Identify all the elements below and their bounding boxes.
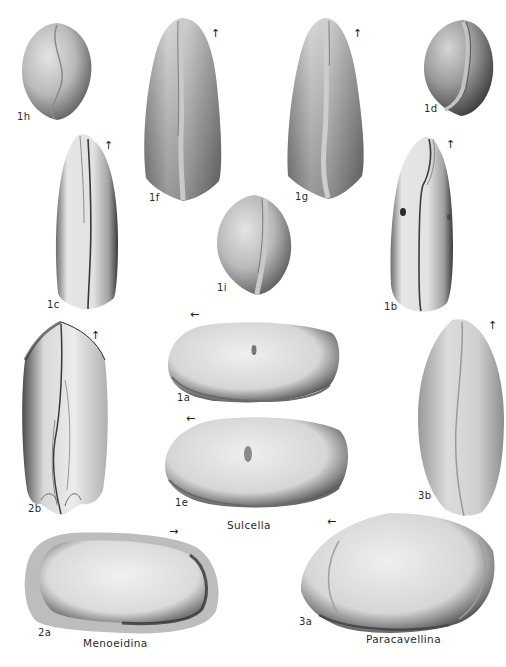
specimen-1c [54,133,120,311]
label-1f: 1f [149,193,159,203]
specimen-1a [166,321,342,405]
orientation-arrow-2b: ↑ [91,330,100,341]
label-2a: 2a [38,628,51,638]
label-3a: 3a [299,617,312,627]
label-1e: 1e [175,498,188,508]
specimen-1g [286,16,366,200]
orientation-arrow-1c: ↑ [104,140,113,151]
specimen-1e [163,416,351,510]
genus-name-menoeidina: Menoeidina [83,638,148,649]
label-1d: 1d [424,104,437,114]
specimen-3b [416,318,506,518]
orientation-arrow-3a: ← [327,516,336,527]
label-1h: 1h [17,112,30,122]
orientation-arrow-1f: ↑ [211,28,220,39]
label-1b: 1b [384,302,397,312]
genus-name-paracavellina: Paracavellina [366,634,441,645]
orientation-arrow-2a: → [169,526,178,537]
label-1i: 1i [217,283,227,293]
label-3b: 3b [418,491,431,501]
specimen-2b [21,320,109,516]
orientation-arrow-1b: ↑ [446,139,455,150]
orientation-arrow-1a: ← [190,309,199,320]
specimen-1i [215,193,295,297]
specimen-1b [389,135,455,313]
label-1g: 1g [295,192,308,202]
label-2b: 2b [28,504,41,514]
specimen-1f [143,16,225,202]
orientation-arrow-1e: ← [186,413,195,424]
orientation-arrow-1g: ↑ [353,28,362,39]
label-1c: 1c [47,300,59,310]
specimen-1h [19,20,95,122]
genus-name-sulcella: Sulcella [227,520,271,531]
orientation-arrow-3b: ↑ [488,320,497,331]
specimen-2a [22,531,222,635]
label-1a: 1a [177,393,190,403]
specimen-3a [299,511,497,635]
